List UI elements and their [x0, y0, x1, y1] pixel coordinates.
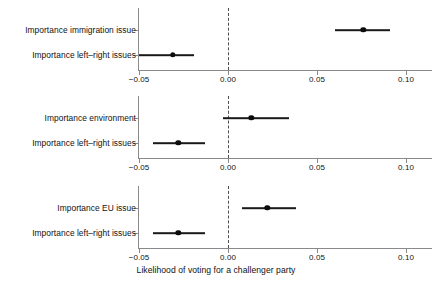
x-axis-tick-label: −0.05 [129, 253, 150, 262]
x-axis-title: Likelihood of voting for a challenger pa… [0, 265, 432, 275]
point-estimate-marker [264, 205, 269, 210]
panel-x-axis-spine [138, 248, 432, 249]
point-estimate-marker [175, 230, 180, 235]
row-label: Importance EU issue [57, 203, 136, 213]
panel-y-axis-spine [138, 186, 139, 248]
panel-eu: −0.050.000.050.10Importance EU issueImpo… [0, 0, 432, 286]
forest-plot-figure: −0.050.000.050.10Importance immigration … [0, 0, 432, 286]
x-axis-tick-label: 0.00 [220, 253, 236, 262]
x-axis-tick-label: 0.10 [398, 253, 414, 262]
row-label: Importance left–right issues [32, 228, 136, 238]
x-axis-tick-label: 0.05 [309, 253, 325, 262]
zero-reference-line [228, 186, 229, 248]
